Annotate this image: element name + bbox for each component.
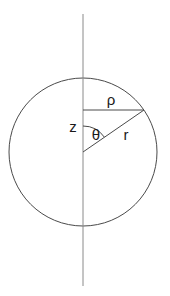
label-r: r (124, 126, 129, 143)
label-z: z (69, 118, 77, 135)
spherical-coordinate-figure: ρ z θ r (0, 0, 170, 296)
label-theta: θ (92, 126, 100, 143)
label-rho: ρ (107, 91, 116, 108)
diagram-canvas: ρ z θ r (0, 0, 170, 296)
